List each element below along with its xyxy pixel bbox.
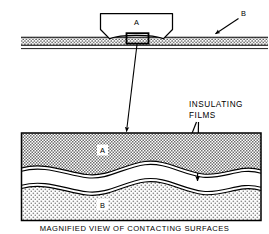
figure-caption: MAGNIFIED VIEW OF CONTACTING SURFACES — [40, 224, 230, 233]
region-b-label: B — [100, 201, 105, 210]
insulating-films-label-line1: INSULATING — [189, 100, 243, 109]
figure-canvas: A B INSULATING FILMS — [0, 0, 269, 234]
magnification-leader — [127, 45, 138, 132]
surface-b-label: B — [241, 9, 246, 18]
contact-surfaces-figure: A B INSULATING FILMS — [0, 0, 269, 234]
region-a-label: A — [100, 146, 105, 155]
region-b-label-group: B — [97, 199, 108, 210]
upper-view-group: A B — [21, 9, 268, 131]
insulating-films-label-line2: FILMS — [189, 111, 216, 120]
region-b-fill — [22, 182, 262, 221]
surface-b-leader — [216, 19, 239, 34]
magnified-view-group: A B — [22, 133, 262, 221]
region-a-label-group: A — [97, 145, 108, 156]
body-a-label: A — [134, 18, 139, 27]
